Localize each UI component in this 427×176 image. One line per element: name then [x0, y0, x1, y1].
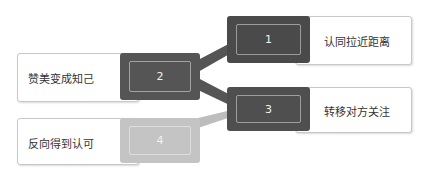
- node-3-label: 转移对方关注: [324, 103, 390, 119]
- node-1-block: 1: [227, 16, 310, 63]
- node-2-label: 赞美变成知己: [28, 70, 94, 86]
- node-4-number: 4: [129, 126, 191, 155]
- node-3-text-panel: 转移对方关注: [295, 87, 412, 133]
- node-2-number: 2: [129, 61, 191, 92]
- node-4-block: 4: [120, 118, 200, 163]
- node-4-label: 反向得到认可: [28, 135, 94, 151]
- node-3-block: 3: [227, 87, 310, 131]
- node-1-number: 1: [236, 24, 301, 55]
- node-1-text-panel: 认同拉近距离: [295, 16, 412, 65]
- node-1-label: 认同拉近距离: [324, 33, 390, 49]
- node-3-number: 3: [236, 95, 301, 123]
- node-2-block: 2: [120, 53, 200, 100]
